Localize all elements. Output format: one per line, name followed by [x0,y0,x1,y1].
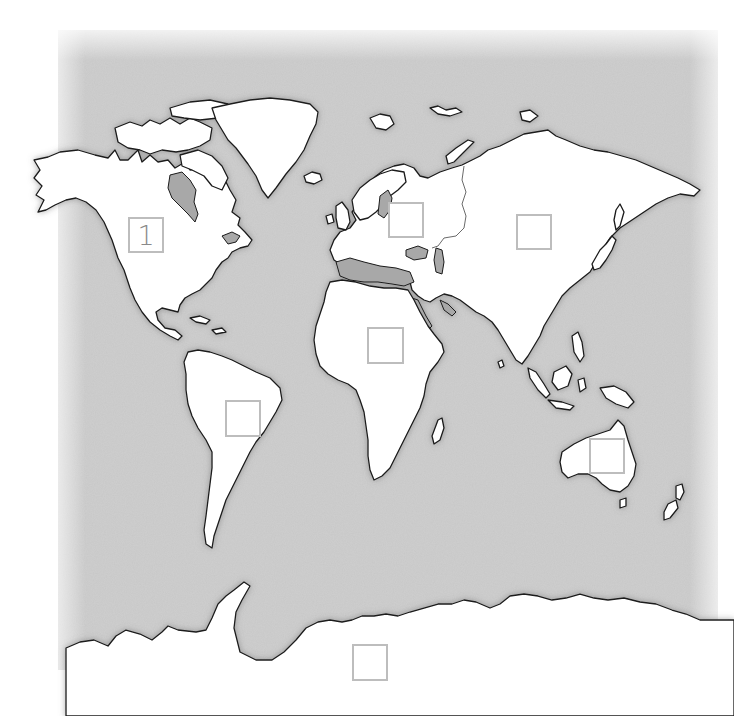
label-box-north-america[interactable]: 1 [128,217,164,253]
label-box-africa[interactable] [367,327,404,364]
label-box-south-america[interactable] [225,400,261,437]
label-box-antarctica[interactable] [352,644,388,681]
caspian-sea [434,248,444,274]
tasmania [620,498,626,508]
label-box-asia[interactable] [516,214,552,250]
label-box-australia[interactable] [589,438,625,474]
world-map: 1 [0,0,734,716]
label-box-europe[interactable] [388,202,424,238]
